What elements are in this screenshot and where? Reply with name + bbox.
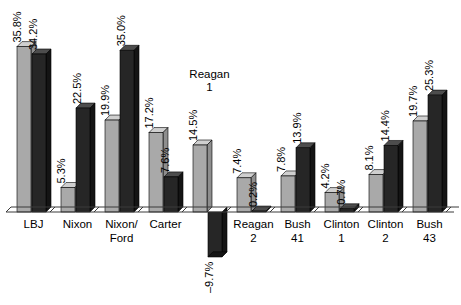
axis-tick-8 — [358, 207, 363, 212]
category-label-6-line0: Bush — [284, 218, 310, 230]
category-label-3-line0: Carter — [150, 218, 182, 230]
category-label-5-line1: 2 — [250, 232, 256, 244]
category-label-9-line0: Bush — [416, 218, 442, 230]
bar-dark-8[interactable] — [384, 140, 403, 212]
bar-light-4[interactable] — [193, 140, 212, 212]
value-label-light-0: 35.8% — [11, 11, 23, 42]
bar-dark-4[interactable] — [208, 207, 227, 257]
category-label-8-line1: 2 — [382, 232, 388, 244]
axis-tick-6 — [270, 207, 275, 212]
axis-tick-10 — [446, 207, 451, 212]
category-label-0-line0: LBJ — [24, 218, 44, 230]
value-label-dark-0: 34.2% — [27, 19, 39, 50]
value-label-light-7: 4.2% — [319, 163, 331, 188]
bar-dark-9[interactable] — [428, 90, 447, 212]
axis-tick-4 — [182, 207, 187, 212]
value-label-light-2: 19.9% — [99, 85, 111, 116]
axis-tick-7 — [314, 207, 319, 212]
bar-dark-1[interactable] — [76, 103, 95, 212]
category-label-6-line1: 41 — [291, 232, 304, 244]
value-label-dark-9: 25.3% — [423, 60, 435, 91]
category-label-5-line0: Reagan — [233, 218, 273, 230]
bar-chart: 35.8%34.2%5.3%22.5%19.9%35.0%17.2%7.6%14… — [0, 0, 461, 305]
category-label-8-line0: Clinton — [368, 218, 404, 230]
category-label-2-line1: Ford — [110, 232, 134, 244]
value-label-light-1: 5.3% — [55, 158, 67, 183]
category-annotation-4-line0: Reagan — [189, 68, 229, 80]
bar-dark-3[interactable] — [164, 172, 183, 212]
value-label-dark-2: 35.0% — [115, 15, 127, 46]
value-label-dark-7: 0.7% — [335, 179, 347, 204]
value-label-light-4: 14.5% — [187, 110, 199, 141]
value-label-dark-4: –9.7% — [203, 262, 215, 293]
category-label-7-line0: Clinton — [324, 218, 360, 230]
value-label-dark-5: 0.2% — [247, 182, 259, 207]
axis-tick-1 — [50, 207, 55, 212]
value-label-light-9: 19.7% — [407, 86, 419, 117]
category-annotation-4-line1: 1 — [206, 81, 212, 93]
axis-tick-9 — [402, 207, 407, 212]
axis-tick-0 — [6, 207, 11, 212]
category-label-2-line0: Nixon/ — [105, 218, 138, 230]
category-label-7-line1: 1 — [338, 232, 344, 244]
category-label-1-line0: Nixon — [63, 218, 92, 230]
value-label-light-8: 8.1% — [363, 145, 375, 170]
value-label-dark-8: 14.4% — [379, 110, 391, 141]
bar-dark-6[interactable] — [296, 143, 315, 212]
axis-tick-3 — [138, 207, 143, 212]
value-label-light-6: 7.8% — [275, 147, 287, 172]
value-label-dark-3: 7.6% — [159, 148, 171, 173]
value-label-dark-1: 22.5% — [71, 73, 83, 104]
bar-dark-2[interactable] — [120, 45, 139, 212]
value-label-dark-6: 13.9% — [291, 112, 303, 143]
bar-dark-0[interactable] — [32, 49, 51, 212]
value-label-light-3: 17.2% — [143, 97, 155, 128]
category-label-9-line1: 43 — [423, 232, 436, 244]
chart-canvas: 35.8%34.2%5.3%22.5%19.9%35.0%17.2%7.6%14… — [0, 0, 461, 305]
value-label-light-5: 7.4% — [231, 149, 243, 174]
axis-tick-2 — [94, 207, 99, 212]
